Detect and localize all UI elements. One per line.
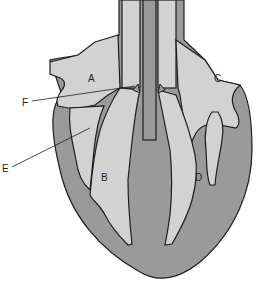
label-e: E (2, 163, 9, 174)
vessel-center (143, 0, 156, 140)
label-a: A (88, 73, 95, 84)
heart-diagram: A B C D E F (0, 0, 265, 295)
label-f: F (22, 97, 28, 108)
vessel-right (158, 0, 176, 88)
label-d: D (195, 172, 202, 183)
label-b: B (101, 172, 108, 183)
label-c: C (214, 73, 221, 84)
vessel-left (122, 0, 140, 88)
